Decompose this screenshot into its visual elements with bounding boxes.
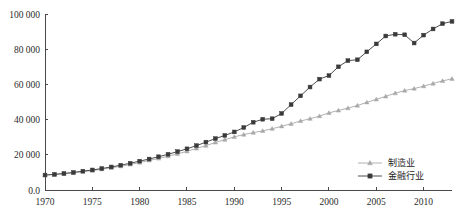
data-point-marker <box>43 173 47 177</box>
line-chart: 100 00080 00060 00040 00020 0000.0 19701… <box>0 0 457 221</box>
data-point-marker <box>289 103 293 107</box>
y-axis-tick-labels: 100 00080 00060 00040 00020 0000.0 <box>9 10 40 196</box>
data-point-marker <box>185 147 189 151</box>
data-point-marker <box>176 150 180 154</box>
data-point-marker <box>157 155 161 159</box>
data-point-marker <box>355 58 359 62</box>
data-point-marker <box>53 172 57 176</box>
legend-item-1[interactable]: 制造业 <box>358 157 415 168</box>
x-tick-label: 1980 <box>130 197 149 207</box>
data-point-marker <box>128 161 132 165</box>
data-point-marker <box>393 32 397 36</box>
data-point-marker <box>251 120 255 124</box>
data-point-marker <box>412 41 416 45</box>
y-tick-label: 20 000 <box>14 150 40 160</box>
x-tick-label: 2005 <box>367 197 386 207</box>
y-tick-label: 40 000 <box>14 115 40 125</box>
data-point-marker <box>299 94 303 98</box>
data-point-marker <box>261 117 265 121</box>
data-point-marker <box>166 152 170 156</box>
y-tick-label: 100 000 <box>9 10 40 20</box>
data-point-marker <box>109 165 113 169</box>
x-tick-label: 1975 <box>83 197 102 207</box>
data-point-marker <box>62 172 66 176</box>
data-point-marker <box>213 137 217 141</box>
chart-container: 100 00080 00060 00040 00020 0000.0 19701… <box>0 0 457 221</box>
x-tick-label: 1985 <box>177 197 196 207</box>
x-tick-label: 2000 <box>319 197 338 207</box>
data-point-marker <box>450 77 454 81</box>
data-point-marker <box>223 134 227 138</box>
x-tick-label: 2010 <box>414 197 433 207</box>
legend-item-2[interactable]: 金融行业 <box>358 170 424 181</box>
data-point-marker <box>346 59 350 63</box>
y-tick-label: 80 000 <box>14 45 40 55</box>
legend-label: 金融行业 <box>388 170 424 181</box>
x-tick-label: 1995 <box>272 197 291 207</box>
data-point-marker <box>337 65 341 69</box>
data-series-layer <box>43 19 454 176</box>
data-point-marker <box>204 140 208 144</box>
x-tick-label: 1970 <box>36 197 55 207</box>
data-point-marker <box>308 85 312 89</box>
legend-label: 制造业 <box>388 157 415 168</box>
legend-square-marker-icon <box>368 174 372 178</box>
data-point-marker <box>90 168 94 172</box>
data-point-marker <box>327 74 331 78</box>
data-point-marker <box>138 159 142 163</box>
x-tick-label: 1990 <box>225 197 244 207</box>
data-point-marker <box>232 130 236 134</box>
data-point-marker <box>71 171 75 175</box>
data-point-marker <box>119 163 123 167</box>
data-point-marker <box>100 167 104 171</box>
data-point-marker <box>81 169 85 173</box>
chart-legend: 制造业金融行业 <box>358 157 424 181</box>
data-point-marker <box>441 22 445 26</box>
data-point-marker <box>147 157 151 161</box>
data-point-marker <box>374 42 378 46</box>
data-point-marker <box>431 27 435 31</box>
data-point-marker <box>450 19 454 23</box>
data-point-marker <box>365 50 369 54</box>
data-point-marker <box>403 33 407 37</box>
data-point-marker <box>195 144 199 148</box>
y-tick-label: 60 000 <box>14 80 40 90</box>
y-tick-label: 0.0 <box>28 186 40 196</box>
series-2 <box>43 19 454 176</box>
x-axis-tick-labels: 197019751980198519901995200020052010 <box>36 197 434 207</box>
data-point-marker <box>422 33 426 37</box>
data-point-marker <box>384 34 388 38</box>
data-point-marker <box>280 112 284 116</box>
data-point-marker <box>318 77 322 81</box>
data-point-marker <box>242 126 246 130</box>
data-point-marker <box>270 117 274 121</box>
